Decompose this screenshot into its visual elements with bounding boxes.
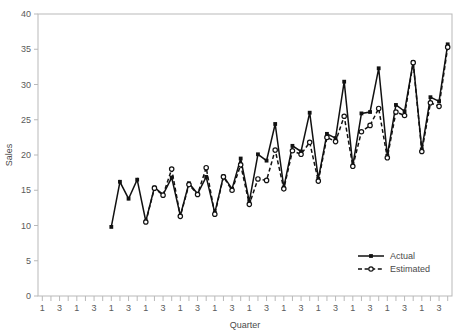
x-tick-label: 1 bbox=[419, 303, 424, 313]
x-tick-label: 3 bbox=[299, 303, 304, 313]
x-tick-label: 1 bbox=[143, 303, 148, 313]
data-point bbox=[325, 135, 329, 139]
data-point bbox=[368, 110, 372, 114]
x-tick-label: 3 bbox=[402, 303, 407, 313]
y-tick-label: 15 bbox=[21, 185, 31, 195]
data-point bbox=[316, 179, 320, 183]
data-point bbox=[411, 60, 415, 64]
series-line-actual bbox=[111, 44, 447, 227]
x-tick-label: 3 bbox=[264, 303, 269, 313]
y-tick-label: 35 bbox=[21, 44, 31, 54]
data-point bbox=[437, 104, 441, 108]
data-point bbox=[376, 106, 380, 110]
x-tick-label: 3 bbox=[333, 303, 338, 313]
data-point bbox=[264, 178, 268, 182]
legend-label: Estimated bbox=[390, 264, 430, 274]
data-point bbox=[385, 156, 389, 160]
x-tick-label: 1 bbox=[40, 303, 45, 313]
y-tick-label: 10 bbox=[21, 221, 31, 231]
data-point bbox=[230, 188, 234, 192]
y-axis-title: Sales bbox=[4, 143, 14, 166]
data-point bbox=[351, 164, 355, 168]
data-point bbox=[178, 214, 182, 218]
series-line-estimated bbox=[146, 47, 448, 222]
y-tick-label: 30 bbox=[21, 80, 31, 90]
data-point bbox=[247, 202, 251, 206]
data-point bbox=[273, 148, 277, 152]
data-point bbox=[144, 220, 148, 224]
x-tick-label: 3 bbox=[126, 303, 131, 313]
x-tick-label: 1 bbox=[109, 303, 114, 313]
data-point bbox=[428, 101, 432, 105]
x-tick-label: 3 bbox=[230, 303, 235, 313]
data-point bbox=[265, 159, 269, 163]
data-point bbox=[445, 45, 449, 49]
x-tick-label: 1 bbox=[385, 303, 390, 313]
data-point bbox=[152, 186, 156, 190]
data-point bbox=[239, 157, 243, 161]
data-point bbox=[299, 152, 303, 156]
chart-legend: ActualEstimated bbox=[358, 251, 430, 274]
data-point bbox=[420, 149, 424, 153]
x-tick-label: 3 bbox=[57, 303, 62, 313]
data-point bbox=[161, 193, 165, 197]
data-point bbox=[204, 165, 208, 169]
legend-marker bbox=[369, 267, 373, 271]
y-tick-label: 0 bbox=[26, 291, 31, 301]
data-point bbox=[429, 95, 433, 99]
data-point bbox=[213, 212, 217, 216]
data-point bbox=[342, 114, 346, 118]
sales-line-chart: 0510152025303540 13131313131313131313131… bbox=[0, 0, 464, 333]
x-tick-label: 1 bbox=[178, 303, 183, 313]
x-tick-label: 3 bbox=[92, 303, 97, 313]
data-point bbox=[282, 187, 286, 191]
data-point bbox=[308, 111, 312, 115]
data-point bbox=[402, 113, 406, 117]
data-point bbox=[273, 122, 277, 126]
y-tick-label: 5 bbox=[26, 256, 31, 266]
data-point bbox=[238, 163, 242, 167]
data-point bbox=[394, 110, 398, 114]
x-tick-label: 3 bbox=[437, 303, 442, 313]
x-tick-label: 1 bbox=[247, 303, 252, 313]
data-point bbox=[118, 180, 122, 184]
data-point bbox=[169, 167, 173, 171]
data-point bbox=[187, 182, 191, 186]
data-point bbox=[359, 130, 363, 134]
x-axis-ticks: 131313131313131313131313 bbox=[40, 296, 448, 313]
data-point bbox=[291, 144, 295, 148]
data-point bbox=[256, 177, 260, 181]
x-tick-label: 3 bbox=[161, 303, 166, 313]
data-point bbox=[135, 178, 139, 182]
data-point bbox=[333, 139, 337, 143]
data-point bbox=[394, 103, 398, 107]
data-point bbox=[377, 66, 381, 70]
data-point bbox=[307, 140, 311, 144]
y-tick-label: 25 bbox=[21, 115, 31, 125]
data-point bbox=[290, 149, 294, 153]
x-axis-title: Quarter bbox=[230, 320, 261, 330]
data-point bbox=[127, 197, 131, 201]
data-point bbox=[109, 225, 113, 229]
x-tick-label: 1 bbox=[350, 303, 355, 313]
data-point bbox=[221, 175, 225, 179]
data-point bbox=[195, 192, 199, 196]
x-tick-label: 1 bbox=[281, 303, 286, 313]
y-tick-label: 40 bbox=[21, 9, 31, 19]
x-tick-label: 1 bbox=[74, 303, 79, 313]
x-tick-label: 3 bbox=[368, 303, 373, 313]
series-layer bbox=[109, 42, 449, 228]
y-axis-ticks: 0510152025303540 bbox=[21, 9, 38, 301]
legend-marker bbox=[369, 254, 373, 258]
legend-label: Actual bbox=[390, 251, 415, 261]
y-tick-label: 20 bbox=[21, 150, 31, 160]
data-point bbox=[368, 123, 372, 127]
data-point bbox=[256, 152, 260, 156]
data-point bbox=[342, 80, 346, 84]
x-tick-label: 1 bbox=[212, 303, 217, 313]
data-point bbox=[360, 112, 364, 116]
x-tick-label: 1 bbox=[316, 303, 321, 313]
x-tick-label: 3 bbox=[195, 303, 200, 313]
chart-container: 0510152025303540 13131313131313131313131… bbox=[0, 0, 464, 333]
